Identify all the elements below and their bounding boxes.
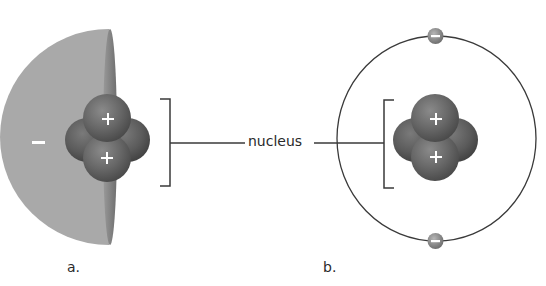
bracket-b	[384, 100, 394, 188]
panel-b	[337, 28, 536, 249]
cloud-charge-sign	[32, 141, 45, 144]
panel-b-label: b.	[323, 259, 336, 275]
electron-bottom	[428, 233, 444, 249]
atom-diagram: nucleus a. b.	[0, 0, 546, 286]
nucleus-b	[393, 94, 478, 181]
minus-sign	[431, 35, 440, 37]
panel-a	[0, 29, 170, 245]
nucleus-label: nucleus	[247, 133, 303, 149]
bracket-a	[160, 99, 170, 186]
electron-top	[428, 28, 444, 44]
minus-sign	[431, 240, 440, 242]
panel-a-label: a.	[67, 259, 80, 275]
